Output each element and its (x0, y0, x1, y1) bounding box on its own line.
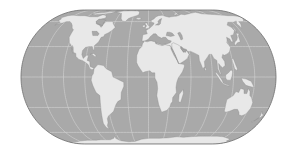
world-map (0, 0, 287, 151)
world-map-canvas (0, 0, 287, 151)
